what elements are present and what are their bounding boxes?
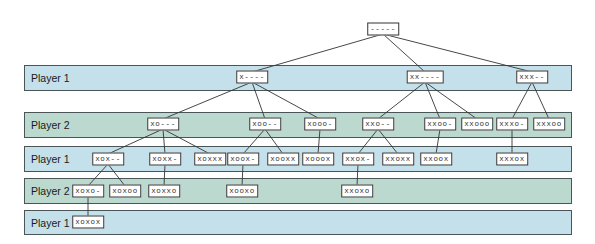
- tree-node-n12: xox--: [92, 153, 124, 166]
- tree-node-n23: xoxoo: [109, 185, 141, 198]
- tree-node-n1: x----: [236, 71, 268, 84]
- edge-n6-n17: [318, 129, 320, 154]
- tree-node-n17: xooox: [302, 153, 334, 166]
- edge-n4-n14: [163, 129, 210, 154]
- tree-node-n19: xxoxx: [382, 153, 414, 166]
- tree-node-n9: xxooo: [461, 118, 493, 131]
- edge-n12-n23: [108, 164, 125, 186]
- edge-n7-n18: [358, 129, 378, 154]
- tree-node-n21: xxxox: [496, 153, 528, 166]
- edge-n7-n19: [378, 129, 398, 154]
- tree-node-n18: xxox-: [342, 153, 374, 166]
- tree-node-n13: xoxx-: [149, 153, 181, 166]
- edge-n3-n10: [512, 82, 532, 119]
- edge-n2-n7: [378, 82, 425, 119]
- tree-node-n15: xoox-: [227, 153, 259, 166]
- tree-node-n11: xxxoo: [533, 118, 565, 131]
- edge-root-n3: [383, 34, 532, 72]
- tree-node-n7: xxo--: [362, 118, 394, 131]
- tree-node-n14: xoxxx: [194, 153, 226, 166]
- tree-node-n3: xxx--: [516, 71, 548, 84]
- edge-n5-n15: [243, 129, 265, 154]
- edge-n15-n25: [242, 164, 243, 186]
- edge-n8-n20: [436, 129, 440, 154]
- tree-node-n26: xxoxo: [341, 185, 373, 198]
- edge-n4-n12: [108, 129, 163, 154]
- edge-n3-n11: [532, 82, 549, 119]
- edge-n13-n24: [164, 164, 165, 186]
- tree-node-n10: xxxo-: [496, 118, 528, 131]
- edge-n12-n22: [88, 164, 108, 186]
- edge-n5-n16: [265, 129, 283, 154]
- edge-root-n1: [252, 34, 383, 72]
- edge-n4-n13: [163, 129, 165, 154]
- edge-n1-n4: [163, 82, 252, 119]
- tree-node-n27: xoxox: [72, 216, 104, 229]
- tree-node-n4: xo---: [147, 118, 179, 131]
- tree-node-n16: xooxx: [267, 153, 299, 166]
- tree-node-root: -----: [367, 23, 399, 36]
- tree-node-n22: xoxo-: [72, 185, 104, 198]
- edge-n18-n26: [357, 164, 358, 186]
- tree-node-n8: xxoo-: [424, 118, 456, 131]
- tree-node-n24: xoxxo: [148, 185, 180, 198]
- tree-node-n25: xooxo: [226, 185, 258, 198]
- tree-node-n6: xooo-: [304, 118, 336, 131]
- tree-node-n2: xx----: [407, 71, 444, 84]
- edge-n1-n6: [252, 82, 320, 119]
- tree-node-n20: xxoox: [420, 153, 452, 166]
- tree-node-n5: xoo--: [249, 118, 281, 131]
